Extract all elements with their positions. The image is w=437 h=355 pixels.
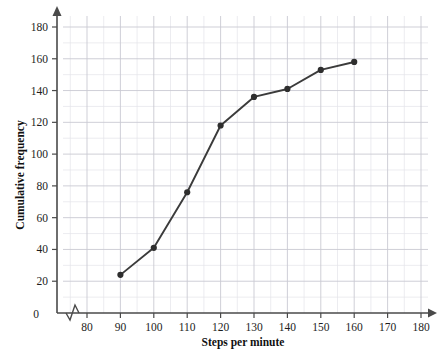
- y-tick-label: 40: [37, 243, 49, 255]
- data-point-marker: [218, 122, 224, 128]
- data-point-marker: [151, 245, 157, 251]
- x-tick-label: 120: [212, 321, 230, 333]
- data-point-marker: [318, 67, 324, 73]
- x-tick-label: 170: [379, 321, 397, 333]
- x-tick-label: 110: [179, 321, 196, 333]
- data-point-marker: [251, 94, 257, 100]
- y-tick-label: 120: [31, 116, 49, 128]
- y-tick-label: 80: [37, 180, 49, 192]
- y-tick-label: 140: [31, 85, 49, 97]
- y-tick-label: 100: [31, 148, 49, 160]
- y-tick-label: 60: [37, 212, 49, 224]
- data-point-marker: [351, 59, 357, 65]
- x-tick-label: 100: [145, 321, 163, 333]
- y-tick-label: 160: [31, 53, 49, 65]
- x-tick-label: 90: [115, 321, 127, 333]
- x-tick-label: 180: [412, 321, 430, 333]
- origin-tick-label: 0: [33, 308, 39, 320]
- y-tick-label: 20: [37, 275, 49, 287]
- x-tick-label: 140: [279, 321, 297, 333]
- x-tick-label: 80: [81, 321, 93, 333]
- data-point-marker: [184, 189, 190, 195]
- cumulative-frequency-chart: 8090100110120130140150160170180 20406080…: [0, 0, 437, 355]
- y-tick-label: 180: [31, 21, 49, 33]
- chart-canvas: 8090100110120130140150160170180 20406080…: [0, 0, 437, 355]
- y-axis-title: Cumulative frequency: [14, 120, 27, 230]
- chart-background: [0, 0, 437, 355]
- x-tick-label: 150: [312, 321, 330, 333]
- x-tick-label: 160: [346, 321, 364, 333]
- data-point-marker: [284, 86, 290, 92]
- x-axis-title: Steps per minute: [202, 336, 285, 349]
- data-point-marker: [117, 272, 123, 278]
- x-tick-label: 130: [245, 321, 263, 333]
